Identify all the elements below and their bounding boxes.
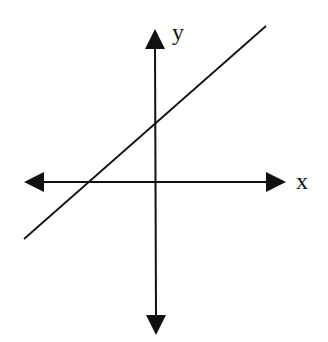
x-axis-right-arrow-icon	[266, 172, 286, 192]
coordinate-diagram: y x	[0, 0, 328, 342]
x-axis-label: x	[296, 168, 308, 194]
plotted-line	[24, 26, 266, 239]
y-axis-label: y	[172, 19, 184, 45]
y-axis-down-arrow-icon	[146, 315, 166, 335]
y-axis-up-arrow-icon	[145, 29, 165, 49]
x-axis-left-arrow-icon	[24, 172, 44, 192]
